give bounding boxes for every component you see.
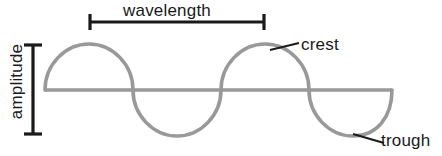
trough-leader-line xyxy=(353,134,384,143)
wavelength-label: wavelength xyxy=(123,2,211,19)
wave-diagram: wavelength crest trough amplitude xyxy=(0,0,442,156)
amplitude-measure-bar xyxy=(24,44,42,135)
trough-label: trough xyxy=(381,132,430,149)
crest-label: crest xyxy=(301,36,339,53)
wave-diagram-canvas xyxy=(0,0,442,156)
amplitude-label: amplitude xyxy=(8,44,25,120)
